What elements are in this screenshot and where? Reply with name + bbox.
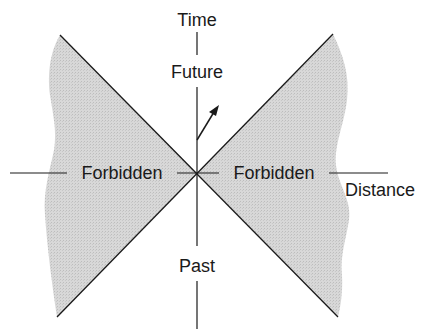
future-label: Future xyxy=(171,62,223,82)
forbidden-right-label: Forbidden xyxy=(233,163,314,183)
distance-axis-label: Distance xyxy=(345,180,415,200)
time-axis-label: Time xyxy=(177,10,216,30)
spacetime-diagram: Time Future Past Forbidden Forbidden Dis… xyxy=(0,0,428,329)
worldline-arrow-icon xyxy=(197,105,219,140)
past-label: Past xyxy=(179,256,215,276)
forbidden-left-label: Forbidden xyxy=(81,163,162,183)
